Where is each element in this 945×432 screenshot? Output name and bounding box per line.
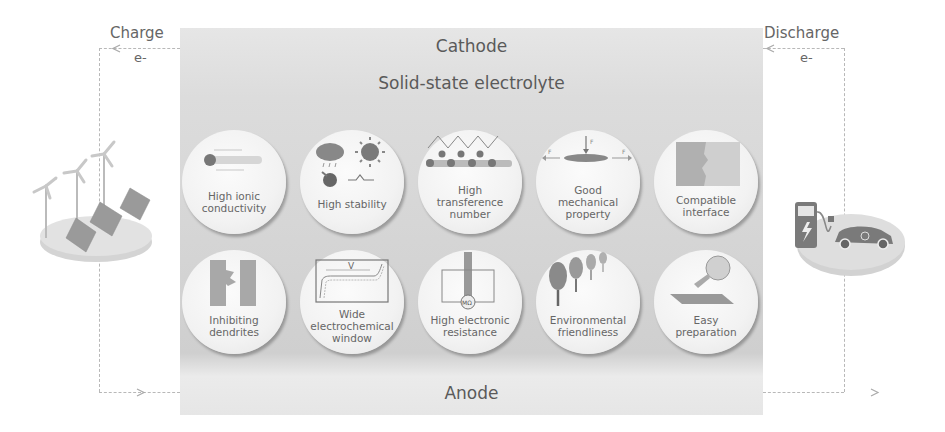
property-high-stability: High stability: [300, 130, 404, 234]
property-label-line: friendliness: [558, 326, 619, 338]
voltage-symbol: V: [348, 261, 355, 271]
ev-charger-car-icon: [785, 180, 915, 280]
property-label-line: mechanical: [558, 196, 618, 208]
property-label-line: conductivity: [202, 202, 266, 214]
megaohm-symbol: MΩ: [462, 299, 472, 306]
property-label-line: Compatible: [676, 194, 736, 206]
renewable-energy-illustration: [30, 130, 160, 270]
trees-icon: [536, 250, 640, 354]
svg-text:F: F: [548, 148, 552, 155]
charge-electron-label: e-: [134, 50, 147, 65]
ion-rod-icon: [182, 130, 286, 234]
property-good-mechanical-property: F F F Goodmechanicalproperty: [536, 130, 640, 234]
property-label-line: Environmental: [550, 314, 626, 326]
property-label-line: High: [458, 184, 482, 196]
property-label-line: property: [566, 208, 611, 220]
dendrite-block-icon: [182, 250, 286, 354]
property-wide-electrochemical-window: V Wideelectrochemicalwindow: [300, 250, 404, 354]
arrow-right-icon: [870, 388, 880, 397]
property-label-line: number: [450, 208, 491, 220]
svg-text:F: F: [622, 148, 626, 155]
property-label-line: Wide: [339, 308, 365, 320]
arrow-left-icon: [112, 44, 122, 53]
discharge-electron-label: e-: [800, 50, 813, 65]
arrow-right-icon: [136, 388, 146, 397]
property-high-electronic-resistance: MΩ High electronicresistance: [418, 250, 522, 354]
property-label-line: resistance: [443, 326, 497, 338]
charge-label: Charge: [110, 24, 164, 42]
property-label-line: Inhibiting: [209, 314, 258, 326]
wind-solar-icon: [30, 130, 160, 270]
property-high-ionic-conductivity: High ionicconductivity: [182, 130, 286, 234]
property-label-line: transference: [437, 196, 504, 208]
ev-charging-illustration: [785, 180, 915, 280]
property-label-line: Good: [574, 184, 602, 196]
interface-block-icon: [654, 130, 758, 234]
arrow-left-icon: [766, 44, 776, 53]
electrolyte-title: Solid-state electrolyte: [180, 73, 763, 93]
property-label-line: preparation: [675, 326, 736, 338]
anode-label: Anode: [180, 383, 763, 403]
property-label-line: electrochemical: [310, 320, 393, 332]
property-label-line: High electronic: [430, 314, 509, 326]
battery-cell-panel: Cathode Solid-state electrolyte Anode Hi…: [180, 28, 763, 415]
property-easy-preparation: Easypreparation: [654, 250, 758, 354]
flask-substrate-icon: [654, 250, 758, 354]
property-label-line: interface: [683, 206, 730, 218]
svg-text:F: F: [590, 138, 594, 145]
property-label-line: Easy: [694, 314, 719, 326]
property-label-line: dendrites: [209, 326, 259, 338]
megaohm-circuit-icon: MΩ: [418, 250, 522, 354]
discharge-wire-bottom: [763, 392, 844, 393]
property-label-line: High stability: [317, 198, 386, 210]
discharge-label: Discharge: [764, 24, 839, 42]
property-label-line: window: [332, 332, 372, 344]
cathode-label: Cathode: [180, 36, 763, 56]
weather-chemical-stability-icon: [300, 130, 404, 234]
property-environmental-friendliness: Environmentalfriendliness: [536, 250, 640, 354]
property-inhibiting-dendrites: Inhibitingdendrites: [182, 250, 286, 354]
property-compatible-interface: Compatibleinterface: [654, 130, 758, 234]
property-label-line: High ionic: [208, 190, 260, 202]
property-high-transference-number: Hightransferencenumber: [418, 130, 522, 234]
